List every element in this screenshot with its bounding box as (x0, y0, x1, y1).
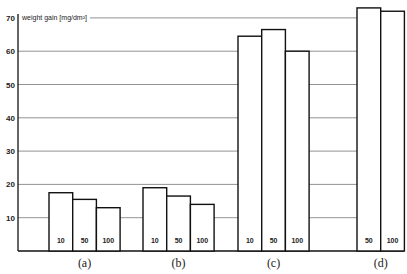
bar (262, 30, 286, 251)
bars: 10501001050100105010050100 (49, 8, 404, 251)
bar-label: 100 (291, 237, 303, 244)
group-label: (b) (172, 256, 186, 270)
bar (238, 36, 262, 251)
y-tick-label: 70 (6, 14, 15, 23)
bar-label: 50 (81, 237, 89, 244)
bar (96, 208, 120, 251)
bar-label: 10 (246, 237, 254, 244)
bar (357, 8, 381, 251)
group-label: (c) (267, 256, 280, 270)
bar-label: 50 (365, 237, 373, 244)
group-label: (a) (78, 256, 91, 270)
bar-label: 100 (387, 237, 399, 244)
bar-label: 100 (196, 237, 208, 244)
bar (285, 51, 309, 251)
y-tick-label: 30 (6, 147, 15, 156)
y-axis-label: weight gain [mg/dm²] (21, 14, 87, 22)
y-tick-label: 10 (6, 214, 15, 223)
bar (381, 11, 405, 251)
y-tick-label: 40 (6, 114, 15, 123)
y-tick-label: 60 (6, 47, 15, 56)
bar (190, 204, 214, 251)
y-tick-label: 20 (6, 180, 15, 189)
bar-label: 10 (57, 237, 65, 244)
group-labels: (a)(b)(c)(d) (78, 256, 388, 270)
bar-label: 100 (102, 237, 114, 244)
bar-label: 50 (270, 237, 278, 244)
y-tick-label: 50 (6, 81, 15, 90)
y-axis-ticks: 10203040506070 (6, 14, 15, 223)
bar-label: 50 (175, 237, 183, 244)
gridlines (18, 18, 404, 218)
bar-chart: 10203040506070 weight gain [mg/dm²] 1050… (0, 0, 407, 274)
bar-label: 10 (151, 237, 159, 244)
group-label: (d) (374, 256, 388, 270)
